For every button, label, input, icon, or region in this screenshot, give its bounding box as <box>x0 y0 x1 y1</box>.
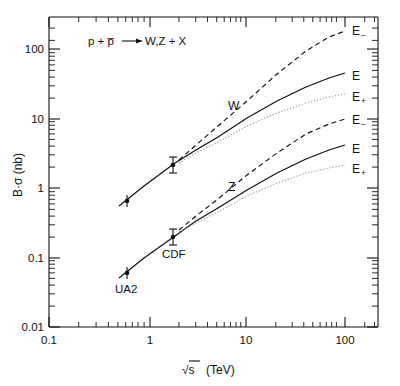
label-subscript: − <box>361 30 366 40</box>
xtick-label-0.1: 0.1 <box>41 334 57 346</box>
marker-point <box>171 235 176 240</box>
inline-label-ua2: UA2 <box>115 283 137 295</box>
inline-label-w: W <box>228 99 240 113</box>
axes-frame <box>49 17 378 327</box>
curve-label-w-e: E <box>352 69 360 83</box>
ytick-label-0.1: 0.1 <box>28 252 44 264</box>
curve-z-e-minus <box>179 119 345 230</box>
x-axis-title-root: √s <box>182 363 195 377</box>
label-text: E <box>352 90 360 104</box>
datapoint-cdf-z <box>169 229 177 245</box>
curve-label-z-e: E <box>352 142 360 156</box>
reaction-left: p + p̅ <box>88 35 115 47</box>
x-axis-title: √s (TeV) <box>182 361 235 377</box>
z-curves <box>119 119 345 278</box>
label-text: E <box>352 69 360 83</box>
xtick-label-10: 10 <box>240 334 253 346</box>
marker-point <box>125 199 130 204</box>
y-axis-title: B·σ (nb) <box>11 153 25 197</box>
x-axis-ticks <box>49 17 375 327</box>
reaction-right: W,Z + X <box>145 35 187 47</box>
datapoint-ua2-w <box>125 195 130 207</box>
datapoint-ua2-z <box>125 267 130 279</box>
curve-label-w-e-minus: E − <box>352 24 366 40</box>
reaction-arrow-head <box>136 38 142 43</box>
reaction-annotation: p + p̅ W,Z + X <box>88 35 187 47</box>
inline-label-cdf: CDF <box>162 248 186 260</box>
y-axis-ticks <box>49 28 378 327</box>
ytick-label-1: 1 <box>38 182 44 194</box>
cross-section-log-log-plot: p + p̅ W,Z + X W Z CDF UA2 E − E E + E −… <box>0 0 400 386</box>
curve-w-e-plus <box>179 94 345 163</box>
curve-w-e-minus <box>179 31 345 160</box>
label-subscript: − <box>361 119 366 129</box>
ytick-label-0.01: 0.01 <box>22 321 44 333</box>
curve-label-z-e-plus: E + <box>352 162 366 178</box>
label-text: E <box>352 24 360 38</box>
datapoint-cdf-w <box>169 157 177 173</box>
label-text: E <box>352 162 360 176</box>
marker-point <box>171 163 176 168</box>
ytick-label-100: 100 <box>25 43 44 55</box>
curve-z-e-plus <box>179 165 345 232</box>
figure-container: p + p̅ W,Z + X W Z CDF UA2 E − E E + E −… <box>0 0 400 386</box>
inline-label-z: Z <box>228 180 235 194</box>
ytick-label-10: 10 <box>31 113 44 125</box>
label-text: E <box>352 142 360 156</box>
curve-z-e-central <box>119 145 345 278</box>
label-subscript: + <box>361 168 366 178</box>
x-axis-title-units: (TeV) <box>206 363 235 377</box>
label-subscript: + <box>361 96 366 106</box>
xtick-label-100: 100 <box>335 334 354 346</box>
marker-point <box>125 271 130 276</box>
curve-label-w-e-plus: E + <box>352 90 366 106</box>
label-text: E <box>352 113 360 127</box>
curve-label-z-e-minus: E − <box>352 113 366 129</box>
xtick-label-1: 1 <box>147 334 153 346</box>
